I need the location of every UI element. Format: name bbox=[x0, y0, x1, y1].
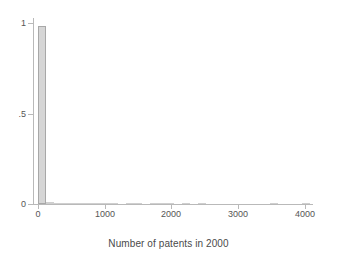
y-tick-label: 0 bbox=[0, 200, 26, 209]
histogram-bar bbox=[134, 203, 142, 204]
histogram-bar bbox=[158, 203, 166, 204]
y-tick-label: 1 bbox=[0, 19, 26, 28]
y-tick-mark bbox=[28, 23, 33, 24]
y-tick-label: .5 bbox=[0, 110, 26, 119]
x-tick-label: 4000 bbox=[283, 210, 327, 219]
x-axis-line bbox=[33, 204, 313, 205]
histogram-bar bbox=[110, 203, 118, 204]
histogram-bar bbox=[198, 203, 206, 204]
histogram-bar bbox=[78, 203, 86, 204]
x-tick-label: 2000 bbox=[149, 210, 193, 219]
y-tick-mark bbox=[28, 204, 33, 205]
histogram-bar bbox=[46, 202, 54, 204]
histogram-bar bbox=[70, 203, 78, 204]
histogram-bar bbox=[86, 203, 94, 204]
y-tick-mark bbox=[28, 114, 33, 115]
histogram-bar bbox=[126, 203, 134, 204]
histogram-bar bbox=[94, 203, 102, 204]
histogram-bar bbox=[38, 26, 46, 204]
histogram-bar bbox=[62, 203, 70, 204]
x-tick-label: 3000 bbox=[216, 210, 260, 219]
x-tick-label: 0 bbox=[16, 210, 60, 219]
x-tick-label: 1000 bbox=[83, 210, 127, 219]
histogram-bar bbox=[150, 203, 158, 204]
histogram-bar bbox=[166, 203, 174, 204]
histogram-bar bbox=[102, 203, 110, 204]
histogram-bar bbox=[302, 203, 310, 204]
x-axis-title: Number of patents in 2000 bbox=[0, 238, 337, 249]
histogram-bar bbox=[54, 203, 62, 204]
histogram-figure: 1.50 01000200030004000 Number of patents… bbox=[0, 0, 337, 260]
plot-area bbox=[34, 18, 313, 204]
histogram-bar bbox=[270, 203, 278, 204]
histogram-bar bbox=[182, 203, 190, 204]
